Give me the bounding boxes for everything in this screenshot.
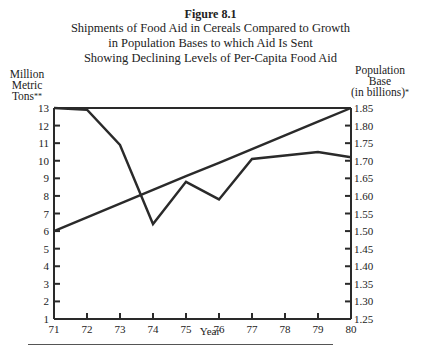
chart-series	[54, 108, 351, 231]
right-tick-label: 1.65	[354, 172, 374, 184]
left-tick-label: 7	[44, 208, 50, 220]
right-tick-label: 1.85	[354, 102, 374, 114]
left-tick-label: 10	[38, 155, 50, 167]
left-tick-label: 9	[44, 172, 50, 184]
left-tick-label: 12	[38, 120, 49, 132]
x-tick-label: 71	[49, 323, 60, 335]
left-tick-label: 3	[44, 278, 50, 290]
x-tick-label: 72	[82, 323, 93, 335]
x-axis-title: Year	[190, 325, 230, 337]
x-tick-label: 80	[346, 323, 358, 335]
right-tick-label: 1.25	[354, 313, 374, 325]
right-tick-label: 1.70	[354, 155, 374, 167]
right-tick-label: 1.35	[354, 278, 374, 290]
x-tick-label: 79	[313, 323, 325, 335]
x-tick-label: 74	[148, 323, 160, 335]
right-tick-label: 1.30	[354, 295, 374, 307]
left-tick-label: 2	[44, 295, 50, 307]
left-tick-label: 6	[44, 225, 50, 237]
x-tick-label: 73	[115, 323, 127, 335]
right-tick-label: 1.45	[354, 243, 374, 255]
tick-labels: 123456789101112131.251.301.351.401.451.5…	[38, 102, 374, 335]
x-tick-label: 77	[247, 323, 259, 335]
population-line	[54, 108, 351, 231]
left-tick-label: 13	[38, 102, 50, 114]
line-chart: 123456789101112131.251.301.351.401.451.5…	[0, 0, 421, 360]
x-tick-label: 78	[280, 323, 292, 335]
right-tick-label: 1.50	[354, 225, 374, 237]
right-tick-label: 1.55	[354, 208, 374, 220]
left-tick-label: 5	[44, 243, 50, 255]
right-tick-label: 1.75	[354, 137, 374, 149]
left-tick-label: 4	[44, 260, 50, 272]
right-tick-label: 1.60	[354, 190, 374, 202]
right-tick-label: 1.40	[354, 260, 374, 272]
left-tick-label: 11	[38, 137, 49, 149]
right-tick-label: 1.80	[354, 120, 374, 132]
footer-rule	[28, 344, 333, 345]
left-tick-label: 8	[44, 190, 50, 202]
